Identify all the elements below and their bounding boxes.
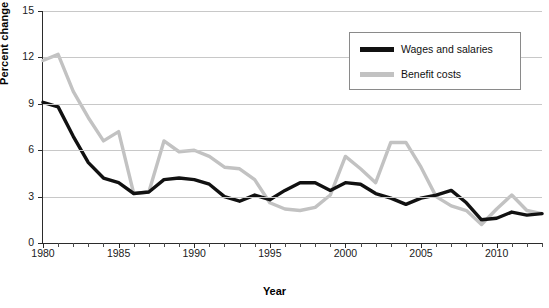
y-tick-label-6: 6: [0, 144, 34, 154]
x-tick-1992: [224, 243, 225, 247]
gridline-y-6: [43, 150, 542, 151]
x-tick-2002: [376, 243, 377, 247]
x-tick-1998: [315, 243, 316, 247]
x-tick-2008: [466, 243, 467, 247]
y-tick-3: [38, 197, 43, 198]
x-tick-label-2010: 2010: [477, 247, 517, 259]
y-tick-label-0: 0: [0, 237, 34, 247]
y-tick-15: [38, 11, 43, 12]
x-tick-2012: [527, 243, 528, 247]
x-tick-1986: [134, 243, 135, 247]
x-tick-1991: [209, 243, 210, 247]
x-tick-1981: [58, 243, 59, 247]
x-tick-2003: [391, 243, 392, 247]
gridline-y-15: [43, 11, 542, 12]
x-tick-1997: [300, 243, 301, 247]
x-tick-1987: [149, 243, 150, 247]
x-tick-label-1985: 1985: [99, 247, 139, 259]
x-tick-label-2005: 2005: [401, 247, 441, 259]
x-tick-label-2000: 2000: [325, 247, 365, 259]
legend-item-benefits: Benefit costs: [360, 66, 461, 82]
x-tick-label-1995: 1995: [250, 247, 290, 259]
x-axis-title: Year: [0, 285, 549, 297]
y-tick-label-9: 9: [0, 98, 34, 108]
chart-legend: Wages and salaries Benefit costs: [349, 32, 521, 90]
legend-swatch-wages: [360, 47, 394, 52]
x-tick-2007: [451, 243, 452, 247]
y-tick-12: [38, 57, 43, 58]
legend-swatch-benefits: [360, 72, 394, 77]
gridline-y-3: [43, 197, 542, 198]
x-tick-2006: [436, 243, 437, 247]
x-tick-1988: [164, 243, 165, 247]
x-tick-1993: [240, 243, 241, 247]
series-line-wages-and-salaries: [43, 102, 542, 220]
gridline-y-9: [43, 104, 542, 105]
legend-item-wages: Wages and salaries: [360, 41, 493, 57]
x-tick-1983: [88, 243, 89, 247]
x-tick-1996: [285, 243, 286, 247]
y-tick-label-3: 3: [0, 191, 34, 201]
x-tick-2001: [361, 243, 362, 247]
y-tick-9: [38, 104, 43, 105]
y-tick-label-15: 15: [0, 5, 34, 15]
x-tick-2011: [512, 243, 513, 247]
x-tick-label-1980: 1980: [23, 247, 63, 259]
x-tick-2013: [542, 243, 543, 247]
x-tick-1982: [73, 243, 74, 247]
legend-label-benefits: Benefit costs: [401, 68, 461, 80]
legend-label-wages: Wages and salaries: [401, 43, 493, 55]
chart-figure: 1980198519901995200020052010 Percent cha…: [0, 0, 549, 308]
x-tick-label-1990: 1990: [174, 247, 214, 259]
y-tick-label-12: 12: [0, 51, 34, 61]
y-tick-6: [38, 150, 43, 151]
